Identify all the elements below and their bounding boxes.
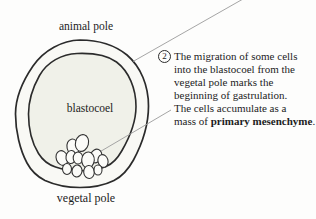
annotation-line: The cells accumulate as a: [174, 102, 312, 115]
annotation-line-suffix: .: [312, 115, 315, 127]
annotation-text: The migration of some cells into the bla…: [174, 50, 312, 128]
annotation-line: beginning of gastrulation.: [174, 89, 312, 102]
figure-canvas: animal pole blastocoel vegetal pole 2 Th…: [0, 0, 316, 219]
annotation-term-primary-mesenchyme: primary mesenchyme: [211, 115, 313, 127]
annotation-line: into the blastocoel from the: [174, 63, 312, 76]
vegetal-pole-label: vegetal pole: [53, 192, 119, 204]
mesenchyme-cell: [63, 164, 72, 175]
blastocoel-label: blastocoel: [59, 102, 121, 114]
annotation-line: The migration of some cells: [174, 50, 312, 63]
step-2-marker: 2: [158, 50, 171, 63]
mesenchyme-cell: [94, 165, 102, 175]
annotation-line: vegetal pole marks the: [174, 76, 312, 89]
annotation-line: mass of primary mesenchyme.: [174, 115, 312, 128]
annotation-line-prefix: mass of: [174, 115, 211, 127]
animal-pole-label: animal pole: [53, 20, 119, 32]
mesenchyme-cell: [83, 165, 95, 179]
